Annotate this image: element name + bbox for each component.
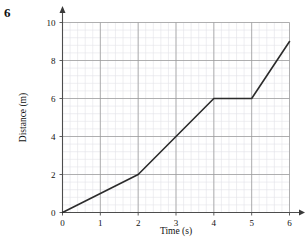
distance-time-chart: 0123456 0246810 Time (s) Distance (m) [0, 0, 308, 239]
y-tick-label: 4 [51, 132, 56, 142]
x-tick-label: 4 [212, 218, 217, 228]
y-axis-tick-labels: 0246810 [47, 18, 57, 218]
major-gridlines [63, 23, 290, 213]
y-axis-title: Distance (m) [18, 93, 29, 142]
x-axis-title: Time (s) [160, 226, 192, 237]
y-tick-label: 8 [51, 56, 56, 66]
y-axis-arrow-icon [60, 6, 66, 13]
x-axis-arrow-icon [299, 210, 305, 216]
x-tick-label: 2 [136, 218, 141, 228]
y-tick-label: 10 [47, 18, 57, 28]
x-tick-label: 0 [60, 218, 65, 228]
x-tick-label: 1 [98, 218, 103, 228]
distance-time-graph-figure: 6 0123456 0246810 Time (s) Distance (m) [0, 0, 308, 239]
y-tick-label: 6 [51, 94, 56, 104]
y-tick-label: 2 [51, 170, 56, 180]
x-tick-label: 6 [287, 218, 292, 228]
y-tick-label: 0 [51, 208, 56, 218]
x-tick-label: 5 [249, 218, 254, 228]
axis-tick-marks [60, 23, 290, 216]
